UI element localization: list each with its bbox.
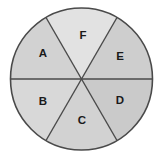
- sector-label-d: D: [116, 94, 124, 106]
- sector-label-c: C: [78, 114, 86, 126]
- sector-label-b: B: [39, 95, 47, 107]
- pie-diagram: ABCDEF: [0, 0, 161, 155]
- figure-container: ABCDEF: [0, 0, 161, 155]
- sector-label-a: A: [39, 47, 47, 59]
- sector-label-f: F: [79, 29, 86, 41]
- sector-label-e: E: [116, 50, 124, 62]
